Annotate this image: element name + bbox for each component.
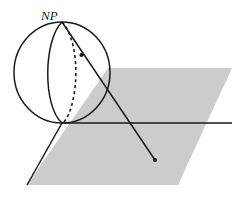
figure-canvas bbox=[0, 0, 244, 199]
projected-point-dot bbox=[153, 158, 157, 162]
north-pole-label: NP bbox=[41, 9, 58, 22]
sphere-surface-point bbox=[79, 53, 83, 57]
projection-plane bbox=[27, 68, 232, 185]
meridian-solid-arc bbox=[48, 22, 62, 123]
stereographic-projection-figure: NP bbox=[0, 0, 244, 199]
meridian-dashed-arc bbox=[62, 22, 76, 123]
